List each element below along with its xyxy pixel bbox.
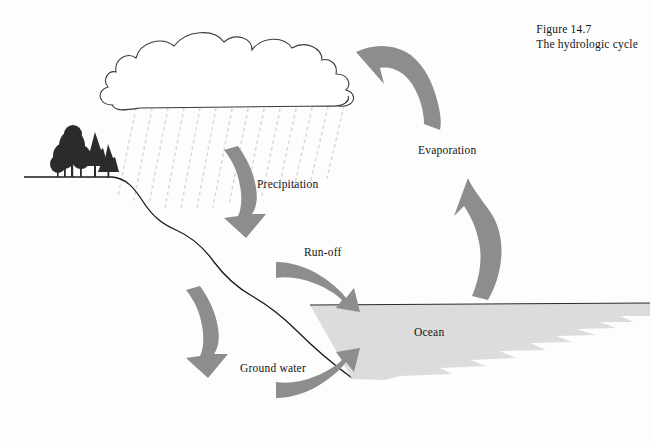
ground-water-arrow <box>186 286 228 378</box>
label-runoff: Run-off <box>304 246 342 258</box>
figure-caption-number: Figure 14.7 <box>536 22 638 37</box>
tree-cluster-icon <box>50 125 119 178</box>
ocean-water <box>310 303 650 380</box>
precipitation-arrow <box>224 146 266 238</box>
figure-caption: Figure 14.7 The hydrologic cycle <box>536 22 638 51</box>
figure-caption-title: The hydrologic cycle <box>536 37 638 52</box>
hydrologic-cycle-illustration <box>0 0 652 442</box>
label-ocean: Ocean <box>414 326 444 338</box>
hydrologic-cycle-figure: Figure 14.7 The hydrologic cycle Precipi… <box>0 0 652 442</box>
label-evaporation: Evaporation <box>418 144 476 156</box>
label-ground-water: Ground water <box>240 362 306 374</box>
label-precipitation: Precipitation <box>257 178 318 190</box>
evaporation-arrow-upper <box>356 46 441 130</box>
evaporation-arrow-lower <box>454 178 501 300</box>
cloud-shape <box>100 33 353 107</box>
